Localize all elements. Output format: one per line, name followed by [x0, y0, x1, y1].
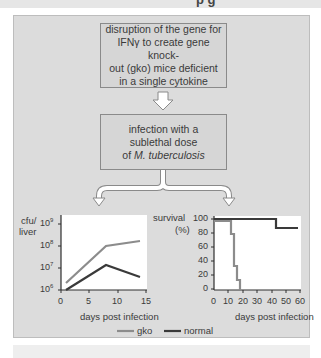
right-ylabel-line2: (%)	[175, 224, 190, 235]
right-ylabel-line1: survival	[153, 212, 185, 223]
right-xtick-40: 40	[267, 296, 277, 306]
right-ytick-80: 80	[198, 227, 208, 237]
right-xtick-50: 50	[281, 296, 291, 306]
right-ytick-40: 40	[198, 255, 208, 265]
left-xtick-5: 5	[86, 296, 91, 306]
left-plot-area	[61, 215, 147, 290]
right-xtick-30: 30	[252, 296, 262, 306]
left-xtick-15: 15	[141, 296, 151, 306]
legend-normal-label: normal	[184, 325, 213, 336]
right-xtick-20: 20	[238, 296, 248, 306]
right-xlabel: days post infection	[235, 311, 314, 322]
right-ytick-100: 100	[193, 213, 208, 223]
right-ytick-20: 20	[198, 269, 208, 279]
right-xtick-0: 0	[211, 296, 216, 306]
left-xlabel: days post infection	[80, 311, 159, 322]
right-xtick-60: 60	[295, 296, 305, 306]
legend-gko-label: gko	[137, 325, 152, 336]
left-ytick-1e9: 109	[40, 217, 53, 228]
left-ytick-1e8: 108	[40, 239, 53, 250]
left-xtick-0: 0	[58, 296, 63, 306]
left-ytick-1e6: 106	[40, 283, 53, 294]
down-arrow-icon	[153, 92, 173, 110]
left-ylabel-line2: liver	[19, 226, 36, 237]
left-xtick-10: 10	[112, 296, 122, 306]
right-ytick-0: 0	[203, 283, 208, 293]
branch-arrows-icon	[93, 170, 235, 206]
left-ylabel-line1: cfu/	[21, 215, 36, 226]
right-ytick-60: 60	[198, 241, 208, 251]
right-xtick-10: 10	[223, 296, 233, 306]
left-ytick-1e7: 107	[40, 261, 53, 272]
